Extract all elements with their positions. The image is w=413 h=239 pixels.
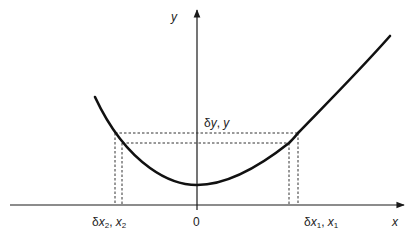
label-var2: y bbox=[222, 116, 230, 130]
label-sub2: 2 bbox=[122, 221, 127, 230]
function-curve bbox=[95, 36, 390, 185]
projection-lines bbox=[115, 133, 298, 205]
label-sep: , bbox=[217, 116, 224, 130]
function-diagram: y x 0 δy, y δx2, x2 δx1, x1 bbox=[0, 0, 413, 239]
origin-label: 0 bbox=[193, 215, 200, 229]
label-sep: , bbox=[321, 215, 328, 229]
label-sep: , bbox=[109, 215, 116, 229]
label-sub2: 1 bbox=[334, 221, 339, 230]
delta-y-label: δy, y bbox=[204, 116, 230, 130]
delta-x1-label: δx1, x1 bbox=[304, 215, 339, 230]
x-axis-label: x bbox=[391, 215, 399, 229]
y-axis-label: y bbox=[170, 10, 178, 24]
delta-x2-label: δx2, x2 bbox=[92, 215, 127, 230]
